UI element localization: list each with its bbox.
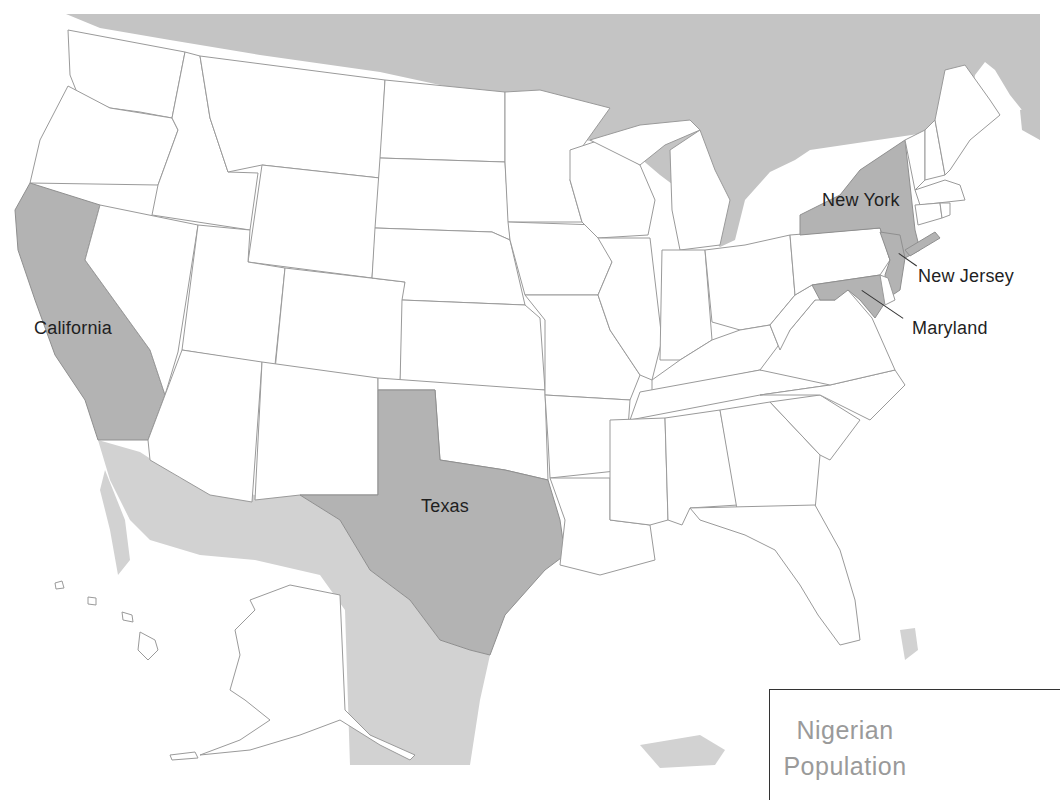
alaska-aleutians: [170, 752, 198, 760]
state-mississippi: [610, 418, 668, 525]
state-hawaii-maui: [122, 612, 133, 622]
title-line-1: Nigerian: [700, 716, 990, 745]
state-rhode-island: [940, 203, 950, 218]
state-north-dakota: [380, 80, 505, 162]
state-south-dakota: [375, 158, 510, 240]
state-florida: [690, 505, 860, 645]
canada-maritime: [1020, 105, 1040, 140]
state-montana: [200, 56, 385, 178]
state-massachusetts: [915, 180, 965, 205]
state-indiana: [660, 250, 712, 360]
state-connecticut: [915, 203, 942, 225]
state-hawaii-big-island: [138, 632, 158, 660]
state-wyoming: [248, 165, 380, 278]
state-maine: [935, 65, 1000, 175]
state-hawaii-oahu: [88, 597, 96, 605]
state-kansas: [400, 300, 545, 390]
label-new-york: New York: [822, 190, 900, 211]
label-maryland: Maryland: [912, 318, 988, 339]
label-new-jersey: New Jersey: [918, 266, 1014, 287]
label-texas: Texas: [421, 496, 469, 517]
label-california: California: [34, 318, 112, 339]
state-hawaii-kauai: [55, 581, 64, 589]
map-title-box: Nigerian Population: [769, 689, 1060, 800]
state-new-mexico: [255, 362, 378, 500]
title-line-2: Population: [700, 752, 990, 781]
bahamas-region: [900, 628, 918, 660]
